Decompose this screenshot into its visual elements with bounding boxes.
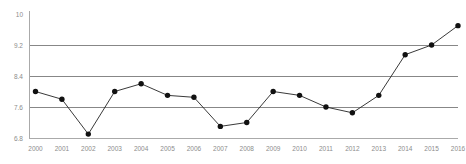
- x-axis-tick-label: 2014: [398, 145, 412, 152]
- x-axis-tick-label: 2013: [372, 145, 386, 152]
- data-point-marker: [429, 42, 434, 47]
- x-axis-tick-label: 2008: [240, 145, 254, 152]
- x-axis-tick-label: 2003: [107, 145, 121, 152]
- x-axis-tick-label: 2005: [160, 145, 174, 152]
- data-point-marker: [323, 104, 328, 109]
- x-axis-tick-label: 2004: [134, 145, 148, 152]
- data-series-line: [36, 26, 459, 134]
- data-point-marker: [244, 120, 249, 125]
- line-chart: 109.28.47.66.8 2000200120022003200420052…: [0, 0, 466, 164]
- data-point-marker: [297, 93, 302, 98]
- x-axis-tick-label: 2009: [266, 145, 280, 152]
- x-axis-tick-label: 2000: [28, 145, 42, 152]
- y-axis-tick-label: 7.6: [0, 104, 23, 111]
- data-point-marker: [402, 52, 407, 57]
- y-axis-tick-label: 6.8: [0, 135, 23, 142]
- y-axis-tick-label: 10: [0, 11, 23, 18]
- data-point-marker: [376, 93, 381, 98]
- data-point-marker: [138, 81, 143, 86]
- data-point-marker: [33, 89, 38, 94]
- data-point-marker: [455, 23, 460, 28]
- series-polyline: [36, 26, 459, 134]
- data-point-marker: [165, 93, 170, 98]
- x-axis-tick-label: 2002: [81, 145, 95, 152]
- data-point-marker: [270, 89, 275, 94]
- data-point-marker: [112, 89, 117, 94]
- x-axis-tick-label: 2012: [345, 145, 359, 152]
- y-axis-tick-label: 9.2: [0, 42, 23, 49]
- chart-plot-area: [0, 0, 466, 164]
- x-axis-tick-label: 2001: [55, 145, 69, 152]
- x-axis-tick-label: 2007: [213, 145, 227, 152]
- gridlines-group: [29, 45, 458, 107]
- data-point-marker: [86, 131, 91, 136]
- data-point-marker: [350, 110, 355, 115]
- data-point-marker: [59, 97, 64, 102]
- x-axis-tick-label: 2015: [424, 145, 438, 152]
- x-axis-tick-label: 2010: [292, 145, 306, 152]
- data-point-marker: [218, 124, 223, 129]
- x-axis-tick-label: 2016: [451, 145, 465, 152]
- x-axis-tick-label: 2011: [319, 145, 333, 152]
- y-axis-tick-label: 8.4: [0, 73, 23, 80]
- axes-group: [29, 11, 458, 138]
- x-axis-tick-label: 2006: [187, 145, 201, 152]
- data-point-marker: [191, 95, 196, 100]
